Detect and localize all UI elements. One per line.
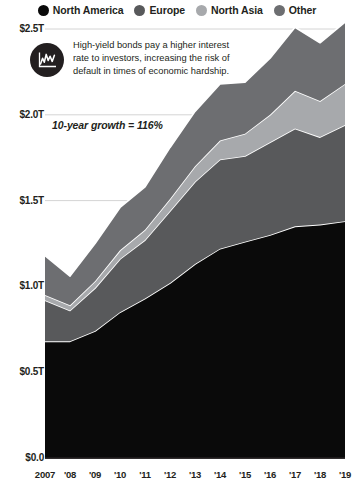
growth-annotation: 10-year growth = 116% xyxy=(52,119,163,131)
legend-dot-icon xyxy=(196,5,207,16)
legend-item-label: Other xyxy=(289,5,317,16)
legend-item-label: Europe xyxy=(149,5,185,16)
legend-item[interactable]: Other xyxy=(274,5,317,16)
x-axis-tick-label: '15 xyxy=(239,470,251,480)
line-chart-glyph xyxy=(37,51,58,70)
x-axis-tick-labels: 2007'08'09'10'11'12'13'14'15'16'17'18'19 xyxy=(0,466,354,487)
x-axis-tick-label: '12 xyxy=(164,470,176,480)
legend-item[interactable]: North America xyxy=(38,5,124,16)
x-axis-tick-label: '16 xyxy=(264,470,276,480)
x-axis-tick-label: '08 xyxy=(64,470,76,480)
x-axis-tick-label: '18 xyxy=(314,470,326,480)
callout-annotation: High-yield bonds pay a higher interest r… xyxy=(30,38,245,79)
legend-dot-icon xyxy=(274,5,285,16)
legend-item[interactable]: North Asia xyxy=(196,5,263,16)
x-axis-tick-label: '10 xyxy=(114,470,126,480)
stacked-area-chart xyxy=(0,18,354,466)
x-axis-tick-label: 2007 xyxy=(35,470,55,480)
y-axis-tick-label: $2.5T xyxy=(0,24,44,34)
line-chart-icon xyxy=(30,43,64,77)
legend-item-label: North Asia xyxy=(211,5,263,16)
chart-legend: North AmericaEuropeNorth AsiaOther xyxy=(0,0,354,20)
y-axis-tick-label: $1.0T xyxy=(0,281,44,291)
x-axis-tick-label: '17 xyxy=(289,470,301,480)
legend-item[interactable]: Europe xyxy=(134,5,185,16)
x-axis-tick-label: '14 xyxy=(214,470,226,480)
y-axis-tick-label: $0.0 xyxy=(0,453,44,463)
legend-dot-icon xyxy=(38,5,49,16)
legend-item-label: North America xyxy=(53,5,124,16)
chart-plot-area xyxy=(0,18,354,466)
x-axis-tick-label: '19 xyxy=(339,470,351,480)
callout-text: High-yield bonds pay a higher interest r… xyxy=(73,38,245,79)
x-axis-tick-label: '09 xyxy=(89,470,101,480)
x-axis-tick-label: '13 xyxy=(189,470,201,480)
legend-dot-icon xyxy=(134,5,145,16)
y-axis-tick-label: $0.5T xyxy=(0,367,44,377)
y-axis-tick-label: $1.5T xyxy=(0,196,44,206)
y-axis-tick-label: $2.0T xyxy=(0,110,44,120)
x-axis-tick-label: '11 xyxy=(139,470,151,480)
